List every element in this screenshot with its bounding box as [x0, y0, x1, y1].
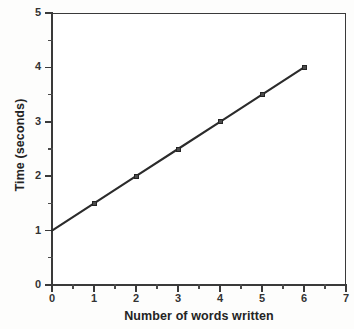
series-line [0, 0, 354, 329]
x-axis-title: Number of words written [0, 309, 354, 323]
chart-figure: 01234501234567 Time (seconds) Number of … [0, 0, 354, 329]
y-axis-title: Time (seconds) [13, 65, 27, 225]
